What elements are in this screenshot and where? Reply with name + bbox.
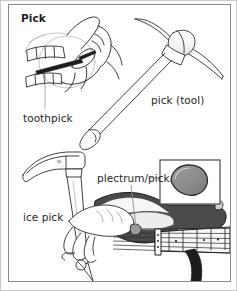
guitar-pickup	[155, 229, 161, 255]
illustration-artwork	[9, 5, 230, 281]
illustration-panel: Pick toothpick pick (tool) ice pick plec…	[8, 4, 231, 282]
label-toothpick: toothpick	[23, 112, 73, 124]
toothpick-scene	[25, 17, 122, 109]
page-title: Pick	[21, 12, 46, 24]
label-plectrum: plectrum/pick	[97, 172, 170, 184]
illustration-page: Pick toothpick pick (tool) ice pick plec…	[0, 0, 237, 291]
label-ice-pick: ice pick	[23, 211, 63, 223]
label-pick-tool: pick (tool)	[151, 94, 204, 106]
